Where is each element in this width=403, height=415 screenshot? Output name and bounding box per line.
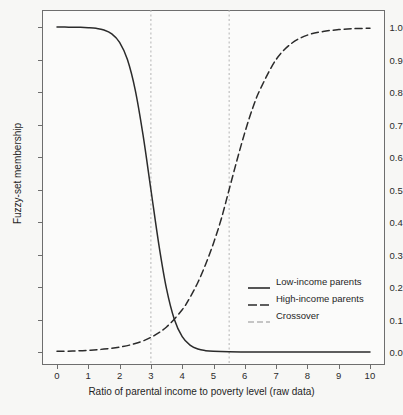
legend-item: Low-income parents — [248, 275, 364, 288]
x-axis-title: Ratio of parental income to poverty leve… — [0, 386, 403, 397]
x-tick-mark — [88, 365, 89, 369]
y-axis-title: Fuzzy-set membership — [12, 74, 23, 274]
legend-line-swatch-dashed — [248, 295, 270, 303]
x-tick-mark — [182, 365, 183, 369]
x-tick-mark — [151, 365, 152, 369]
legend-label: Low-income parents — [276, 276, 362, 287]
x-tick-label: 3 — [148, 370, 153, 381]
x-tick-mark — [370, 365, 371, 369]
legend-line-swatch-dashed-grey — [248, 312, 270, 320]
chart-legend: Low-income parentsHigh-income parentsCro… — [248, 275, 364, 322]
crossover-lines — [151, 10, 229, 365]
x-tick-label: 9 — [336, 370, 341, 381]
x-tick-label: 7 — [273, 370, 278, 381]
x-tick-label: 10 — [365, 370, 376, 381]
x-tick-mark — [120, 365, 121, 369]
x-tick-mark — [276, 365, 277, 369]
x-tick-mark — [307, 365, 308, 369]
x-tick-mark — [214, 365, 215, 369]
x-tick-label: 8 — [305, 370, 310, 381]
legend-label: High-income parents — [276, 293, 364, 304]
x-tick-mark — [245, 365, 246, 369]
x-tick-label: 5 — [211, 370, 216, 381]
fuzzy-set-membership-chart: 1.00.90.80.70.60.50.40.30.20.10.0 012345… — [0, 0, 403, 415]
x-tick-label: 4 — [179, 370, 184, 381]
legend-item: High-income parents — [248, 292, 364, 305]
x-tick-label: 1 — [86, 370, 91, 381]
x-tick-mark — [339, 365, 340, 369]
x-tick-label: 2 — [117, 370, 122, 381]
legend-item: Crossover — [248, 309, 364, 322]
legend-line-swatch-solid — [248, 278, 270, 286]
x-tick-mark — [57, 365, 58, 369]
legend-label: Crossover — [276, 310, 319, 321]
x-tick-label: 0 — [54, 370, 59, 381]
x-tick-label: 6 — [242, 370, 247, 381]
